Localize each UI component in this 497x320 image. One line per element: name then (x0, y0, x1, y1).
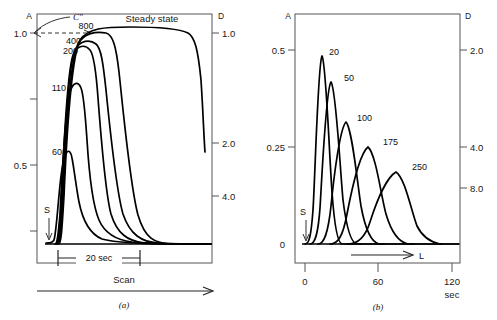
panel-b-plot-frame (295, 14, 460, 263)
panel-b-left-tick-label-3: 0 (280, 239, 285, 250)
panel-b-left-axis-label: A (285, 11, 291, 21)
panel-b-x-tick-label-60: 60 (373, 276, 384, 287)
panel-a-concentration-leader-line (35, 17, 70, 32)
panel-b-length-arrow: L (351, 251, 424, 261)
panel-b-curve-50 (310, 82, 384, 244)
panel-b-right-tick-label-3: 8.0 (470, 183, 483, 194)
panel-b-curve-100 (318, 122, 414, 244)
panel-a-curve-label-800: 800 (78, 21, 93, 31)
panel-a-right-ticks: 1.0 2.0 4.0 (212, 28, 235, 202)
panel-a-left-tick-label-1: 1.0 (14, 28, 27, 39)
panel-b-length-axis-label: L (419, 251, 424, 261)
panel-b-start-marker-label: S (300, 207, 306, 217)
panel-a-scale-bar: 20 sec (58, 250, 140, 266)
panel-a-curve-label-400: 400 (66, 36, 81, 46)
panel-b-x-tick-label-120: 120 (444, 276, 460, 287)
panel-a-right-axis-label: D (218, 11, 224, 21)
panel-a-right-tick-label-2: 2.0 (222, 138, 235, 149)
panel-b-curve-label-20: 20 (329, 47, 339, 57)
panel-a-steady-state-label: Steady state (126, 13, 179, 24)
panel-a-left-tick-label-2: 0.5 (14, 160, 27, 171)
panel-a-curve-400 (57, 41, 211, 244)
figure-svg: A D 1.0 0.5 1.0 2.0 4.0 C″ (0, 0, 497, 320)
panel-a-curve-label-200: 200 (63, 46, 78, 56)
panel-b-x-tick-label-0: 0 (302, 276, 307, 287)
panel-a-right-tick-label-1: 1.0 (222, 28, 235, 39)
panel-b-curve-label-175: 175 (383, 137, 398, 147)
panel-b-id-label: (b) (373, 302, 384, 312)
panel-b-left-tick-label-1: 0.5 (272, 45, 285, 56)
panel-a-left-axis-label: A (26, 11, 32, 21)
panel-a-scan-axis-label: Scan (113, 274, 135, 285)
panel-a-curve-60 (46, 151, 211, 244)
panel-a: A D 1.0 0.5 1.0 2.0 4.0 C″ (14, 11, 235, 310)
panel-b-right-axis-label: D (465, 11, 471, 21)
panel-a-scale-bar-label: 20 sec (86, 253, 113, 263)
panel-a-right-tick-label-3: 4.0 (222, 191, 235, 202)
panel-b-curve-label-250: 250 (412, 162, 427, 172)
panel-b-right-ticks: 2.0 4.0 8.0 (460, 45, 483, 194)
panel-a-curve-200 (56, 46, 211, 244)
panel-b-curve-250 (348, 172, 459, 244)
panel-b-x-ticks: 0 60 120 sec (302, 263, 460, 300)
panel-b-right-tick-label-1: 2.0 (470, 45, 483, 56)
panel-b-left-tick-label-2: 0.25 (267, 142, 286, 153)
panel-a-curve-110 (55, 83, 211, 244)
panel-a-id-label: (a) (119, 300, 130, 310)
panel-a-start-marker-label: S (44, 205, 50, 215)
panel-a-curve-label-110: 110 (52, 83, 66, 93)
panel-a-left-ticks: 1.0 0.5 (14, 28, 37, 231)
panel-b-right-tick-label-2: 4.0 (470, 142, 483, 153)
panel-b-x-unit-label: sec (445, 289, 460, 300)
panel-b: A D 0.5 0.25 0 2.0 4.0 8.0 (267, 11, 484, 312)
figure-container: A D 1.0 0.5 1.0 2.0 4.0 C″ (0, 0, 497, 320)
panel-b-curve-label-100: 100 (357, 113, 372, 123)
panel-b-left-ticks: 0.5 0.25 0 (267, 45, 296, 250)
panel-a-curve-label-60: 60 (52, 147, 62, 157)
panel-b-curve-label-50: 50 (344, 73, 354, 83)
